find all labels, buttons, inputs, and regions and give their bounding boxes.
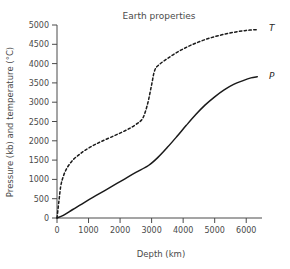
y-tick-label: 1500: [29, 156, 49, 165]
x-tick-label: 4000: [173, 226, 193, 235]
y-tick-label: 2500: [29, 118, 49, 127]
y-tick-label: 4500: [29, 40, 49, 49]
chart-title: Earth properties: [123, 11, 196, 21]
x-tick-label: 2000: [110, 226, 130, 235]
pressure-series-label: P: [269, 71, 275, 81]
x-axis-label: Depth (km): [137, 249, 185, 259]
x-tick-label: 5000: [205, 226, 225, 235]
y-axis-label: Pressure (kb) and temperature (°C): [5, 47, 15, 197]
earth-properties-chart: Earth properties 05001000150020002500300…: [0, 0, 290, 269]
y-tick-label: 3000: [29, 98, 49, 107]
y-tick-label: 500: [34, 195, 49, 204]
x-tick-label: 3000: [141, 226, 161, 235]
y-tick-label: 0: [44, 214, 49, 223]
y-tick-label: 2000: [29, 137, 49, 146]
y-tick-label: 5000: [29, 21, 49, 30]
x-tick-label: 0: [54, 226, 59, 235]
chart-figure: Earth properties 05001000150020002500300…: [0, 0, 290, 269]
y-tick-label: 3500: [29, 79, 49, 88]
y-tick-label: 1000: [29, 175, 49, 184]
x-tick-label: 1000: [78, 226, 98, 235]
x-tick-label: 6000: [236, 226, 256, 235]
y-tick-label: 4000: [29, 60, 49, 69]
